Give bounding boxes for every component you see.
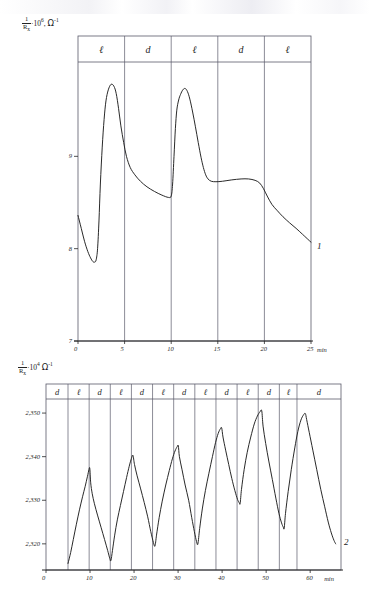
band-label-bottom-0: d — [46, 384, 68, 399]
band-label-bottom-4: d — [131, 384, 152, 399]
band-label-bottom-12: d — [297, 384, 341, 399]
band-label-bottom-2: d — [89, 384, 110, 399]
xtick-label-top-1: 5 — [121, 345, 124, 352]
chart-top-ylabel-mult: ·10 — [31, 19, 41, 28]
xaxis-unit-top: min — [317, 346, 327, 353]
xtick-label-top-5: 25 — [307, 345, 314, 352]
band-label-top-2: ℓ — [171, 36, 218, 62]
xtick-label-bottom-2: 20 — [130, 574, 137, 581]
ytick-label-top-0: 7 — [69, 337, 72, 344]
band-label-bottom-3: ℓ — [110, 384, 131, 399]
xtick-label-top-3: 15 — [214, 345, 221, 352]
band-label-top-4: ℓ — [264, 36, 311, 62]
chart-top-ylabel-comma: , — [44, 19, 46, 28]
band-label-bottom-5: ℓ — [153, 384, 174, 399]
chart-bottom: 1 Rx ·104 Ω-1 2 dℓdℓdℓdℓdℓdℓd2,3202,3302… — [0, 356, 370, 608]
xtick-label-bottom-5: 50 — [262, 574, 269, 581]
chart-top-ylabel-denominator: Rx — [22, 24, 31, 33]
chart-bottom-ylabel-denominator: Rx — [18, 368, 27, 377]
xaxis-unit-bottom: min — [324, 575, 334, 582]
xtick-label-bottom-1: 10 — [86, 574, 93, 581]
ytick-label-top-1: 8 — [69, 245, 72, 252]
chart-bottom-ylabel-exponent: 4 — [37, 361, 40, 367]
chart-bottom-ylabel-omega-exponent: -1 — [48, 361, 53, 367]
chart-top: 1 Rx ·106, Ω-1 1 ℓdℓdℓ7890510152025min — [0, 0, 370, 360]
band-label-bottom-11: ℓ — [279, 384, 297, 399]
band-label-bottom-9: ℓ — [237, 384, 258, 399]
band-label-top-1: d — [125, 36, 172, 62]
chart-top-ylabel-fraction: 1 Rx — [22, 16, 31, 33]
xtick-label-top-0: 0 — [74, 345, 77, 352]
xtick-label-bottom-0: 0 — [42, 574, 45, 581]
ytick-label-bottom-2: 2,340 — [25, 453, 40, 460]
xtick-label-top-4: 20 — [260, 345, 267, 352]
band-label-top-3: d — [218, 36, 265, 62]
ytick-label-bottom-0: 2,320 — [25, 540, 40, 547]
xtick-label-bottom-4: 40 — [218, 574, 225, 581]
band-label-top-0: ℓ — [78, 36, 125, 62]
ytick-label-top-2: 9 — [69, 152, 72, 159]
chart-bottom-curve-label: 2 — [344, 537, 349, 547]
chart-bottom-ylabel-mult: ·10 — [27, 363, 37, 372]
band-label-bottom-1: ℓ — [68, 384, 89, 399]
chart-top-ylabel: 1 Rx ·106, Ω-1 — [22, 16, 59, 33]
xtick-label-bottom-3: 30 — [174, 574, 181, 581]
figure-container: 1 Rx ·106, Ω-1 1 ℓdℓdℓ7890510152025min 1… — [0, 0, 370, 608]
chart-top-curve-label: 1 — [317, 241, 322, 251]
band-label-bottom-6: d — [174, 384, 195, 399]
chart-top-ylabel-omega-exponent: -1 — [54, 17, 59, 23]
band-label-bottom-10: d — [258, 384, 279, 399]
xtick-label-top-2: 10 — [167, 345, 174, 352]
band-label-bottom-7: ℓ — [195, 384, 216, 399]
chart-bottom-ylabel: 1 Rx ·104 Ω-1 — [18, 360, 53, 377]
ytick-label-bottom-3: 2,350 — [25, 409, 40, 416]
chart-bottom-ylabel-fraction: 1 Rx — [18, 360, 27, 377]
xtick-label-bottom-6: 60 — [306, 574, 313, 581]
ytick-label-bottom-1: 2,330 — [25, 496, 40, 503]
band-label-bottom-8: d — [216, 384, 237, 399]
